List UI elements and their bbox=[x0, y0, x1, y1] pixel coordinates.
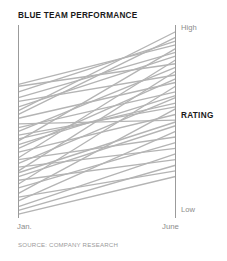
slopegraph-plot bbox=[0, 0, 227, 261]
slope-line bbox=[19, 177, 176, 215]
slope-line bbox=[19, 131, 176, 201]
slope-line bbox=[19, 165, 176, 210]
slope-line bbox=[19, 49, 176, 141]
source-note: SOURCE: COMPANY RESEARCH bbox=[18, 241, 118, 248]
axis-title-rating: RATING bbox=[181, 111, 214, 120]
axis-label-jan: Jan. bbox=[17, 222, 32, 231]
axis-label-low: Low bbox=[181, 205, 195, 214]
slope-line bbox=[19, 171, 176, 197]
slope-line bbox=[19, 137, 176, 160]
axis-label-high: High bbox=[181, 23, 197, 32]
axis-label-june: June bbox=[162, 222, 179, 231]
slope-line-group bbox=[19, 32, 176, 214]
